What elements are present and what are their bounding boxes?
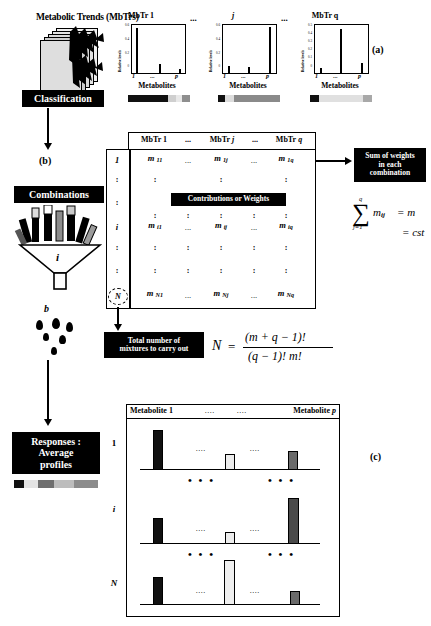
sigma-symbol: ∑ [352,203,370,223]
matrix-header-row: MbTr 1 ... MbTr j ... MbTr q [128,132,316,150]
panel-a-separator-2: ... [281,13,288,23]
contributions-weights-overlay: Contributions or Weights [171,193,286,206]
mbtr-chart-3-yticks: 0.5 0.4 0.3 0.2 0.1 0 [302,25,312,72]
panel-label-a: (a) [372,44,384,55]
average-profile-chart-1: .... .... [140,425,325,470]
panel-c-header-dots-2: .... [237,408,247,414]
funnel-output-label: b [44,303,49,314]
matrix-cell-i-dots-2: ... [242,222,266,232]
matrix-cell-i-j: m ij [199,220,243,230]
figure-root: Metabolic Trends (MbTrs) MbTr 1 Relative… [0,0,431,626]
profile-i-dots-2: .... [250,526,260,532]
matrix-cell-N-dots-2: ... [242,290,266,300]
mbtr-chart-2-header: j [205,11,261,20]
panel-c-between-dots-2a: • • • [188,548,215,560]
sum-box-line-3: combination [370,169,411,178]
sigma-upper-limit: q [359,195,362,202]
sigma-lower-limit: j=1 [353,223,362,230]
mbtr-chart-2-xtitle: Metabolites [211,81,285,90]
sum-equals-cst: = cst [402,226,424,238]
arrow-matrix-to-total-head [114,324,122,331]
matrix-header-0: MbTr 1 [131,135,177,144]
arrow-to-responses-line [47,360,49,420]
classification-strip-2 [218,95,280,102]
matrix-cell-i-dots-1: ... [176,222,200,232]
matrix-header-4: MbTr q [265,135,313,144]
total-box-line-2: mixtures to carry out [120,345,189,354]
mbtr-chart-1-plot [131,24,186,74]
panel-c-header-right: Metabolite p [293,406,336,415]
profile-N-dots-2: .... [250,588,260,594]
classification-strip-1 [128,95,190,102]
mbtr-chart-2-yticks: 0.6 0.4 0.2 0 [210,25,220,72]
classification-box: Classification [22,90,104,107]
sum-equals-m: = m [397,206,415,218]
responses-line-1: Responses : [31,436,81,447]
matrix-cell-1-dots-2: ... [242,155,266,165]
classification-strip-3 [310,95,372,102]
matrix-header-1: ... [176,135,200,144]
average-profile-chart-i: .... .... [140,496,325,544]
responses-line-3: profiles [40,459,72,470]
arrow-classification-to-combinations-head [44,143,52,150]
panel-label-b: (b) [39,155,51,166]
matrix-cell-i-q: m iq [264,220,308,230]
average-profile-chart-N: .... .... [140,560,325,605]
mbtr-chart-3-xtitle: Metabolites [303,81,377,90]
matrix-row-label-1: 1 [106,155,128,165]
responses-strip [14,480,98,488]
mbtr-chart-3-plot [314,24,369,74]
combinations-box: Combinations [14,186,104,203]
funnel-icon: i [14,205,106,295]
metabolic-trends-stack-icon [40,26,106,88]
matrix-cell-1-j: m 1j [199,153,243,163]
matrix-cell-1-dots-1: ... [176,155,200,165]
responses-line-2: Average [39,447,74,458]
arrow-matrix-to-sum-line [316,160,346,162]
mbtr-chart-2-plot [222,24,277,74]
matrix-cell-1-1: m 11 [133,153,177,163]
profile-i-dots-1: .... [196,526,206,532]
N-formula-equals: = [228,339,235,355]
mbtr-chart-3-header: MbTr q [296,11,354,20]
arrow-classification-to-combinations-line [47,108,49,144]
arrow-matrix-to-sum-head [345,157,352,165]
matrix-row-label-N-circled: N [108,288,128,305]
panel-c-between-dots-1a: • • • [188,474,215,486]
sum-body: mij [373,206,385,219]
panel-c-row-label-1: 1 [104,438,124,448]
arrow-to-responses-head [44,419,52,426]
sum-formula: ∑ q j=1 mij = m = cst [352,195,431,245]
N-formula-fraction-bar [243,347,333,348]
matrix-cell-N-q: m Nq [264,288,308,298]
matrix-cell-N-dots-1: ... [176,290,200,300]
N-formula-lhs: N [212,338,221,354]
profile-N-dots-1: .... [196,588,206,594]
profile-1-dots-1: .... [196,446,206,452]
responses-box: Responses : Average profiles [12,432,100,474]
panel-label-c: (c) [370,451,381,462]
arrow-matrix-to-total-line [117,307,119,325]
panel-c-row-label-N: N [104,578,124,588]
profile-1-dots-2: .... [250,446,260,452]
panel-c-header-left: Metabolite 1 [130,406,173,415]
panel-c-row-label-i: i [104,504,124,514]
matrix-header-2: MbTr j [199,135,245,144]
matrix-cell-1-q: m 1q [264,153,308,163]
N-formula-denominator: (q − 1)! m! [248,349,302,364]
matrix-cell-N-1: m N1 [133,288,177,298]
funnel-index-label: i [56,251,59,263]
matrix-header-3: ... [243,135,267,144]
mbtr-chart-1-yticks: 0.6 0.4 0.2 0 [119,25,129,72]
droplets-icon [30,318,90,360]
N-formula-numerator: (m + q − 1)! [245,330,306,345]
panel-a-separator-1: ... [190,13,197,23]
matrix-cell-N-j: m Nj [199,288,243,298]
panel-c-header-dots-1: .... [205,408,215,414]
N-formula: N = (m + q − 1)! (q − 1)! m! [212,330,352,366]
matrix-cell-i-1: m i1 [133,220,177,230]
total-mixtures-box: Total number of mixtures to carry out [104,332,204,358]
sum-of-weights-box: Sum of weights in each combination [354,148,426,182]
matrix-row-label-i: i [106,222,128,232]
mbtr-chart-1-xtitle: Metabolites [120,81,194,90]
